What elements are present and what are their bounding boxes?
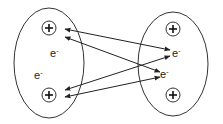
diagram-canvas: e-e-e-e- — [0, 0, 223, 124]
diagram-svg — [0, 0, 223, 124]
electron-label: e- — [160, 68, 168, 80]
nucleus-plus-icon — [42, 88, 56, 102]
nucleus-plus-icon — [166, 88, 180, 102]
electron-label: e- — [34, 69, 42, 81]
electron-label: e- — [50, 47, 58, 59]
bidirectional-arrow — [65, 56, 170, 90]
atoms-group — [14, 8, 208, 118]
bidirectional-arrow — [65, 77, 160, 97]
bidirectional-arrow — [65, 37, 160, 72]
nucleus-plus-icon — [166, 22, 180, 36]
electron-label: e- — [172, 47, 180, 59]
nucleus-plus-icon — [42, 21, 56, 35]
